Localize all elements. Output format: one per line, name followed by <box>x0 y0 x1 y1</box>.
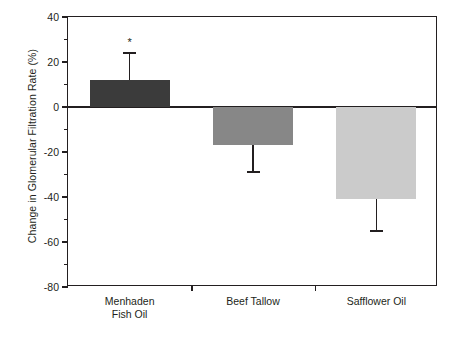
y-axis-tick-label: -40 <box>44 191 59 203</box>
y-axis-tick-label: 0 <box>53 101 59 113</box>
y-axis-title: Change in Glomerular Filtration Rate (%) <box>26 21 38 271</box>
y-axis-tick <box>62 16 68 17</box>
plot-area: 40200-20-40-60-80Menhaden Fish OilBeef T… <box>67 16 437 286</box>
y-axis-tick <box>62 61 68 62</box>
y-axis-minor-tick <box>64 174 68 175</box>
error-bar-cap <box>370 230 383 232</box>
y-axis-tick-label: -80 <box>44 281 59 293</box>
y-axis-minor-tick <box>64 129 68 130</box>
y-axis-minor-tick <box>64 264 68 265</box>
y-axis-tick-label: 40 <box>47 11 59 23</box>
bar <box>90 80 170 107</box>
error-bar-line <box>376 199 378 231</box>
y-axis-tick-label: -60 <box>44 236 59 248</box>
x-axis-tick <box>315 285 316 291</box>
y-axis-tick <box>62 151 68 152</box>
error-bar-cap <box>247 171 260 173</box>
y-axis-minor-tick <box>64 84 68 85</box>
x-axis-tick-label: Safflower Oil <box>347 295 406 308</box>
y-axis-tick-label: 20 <box>47 56 59 68</box>
y-axis-tick-label: -20 <box>44 146 59 158</box>
y-axis-tick <box>62 286 68 287</box>
bar <box>336 107 416 199</box>
significance-marker: * <box>128 37 132 48</box>
caption-strip <box>0 324 469 338</box>
x-axis-tick <box>191 285 192 291</box>
bar <box>213 107 293 145</box>
error-bar-line <box>252 145 254 172</box>
error-bar-cap <box>123 52 136 54</box>
y-axis-minor-tick <box>64 219 68 220</box>
x-axis-tick-label: Beef Tallow <box>226 295 280 308</box>
error-bar-line <box>129 53 131 80</box>
x-axis-tick-label: Menhaden Fish Oil <box>105 295 155 320</box>
y-axis-minor-tick <box>64 39 68 40</box>
y-axis-tick <box>62 196 68 197</box>
chart-figure: Change in Glomerular Filtration Rate (%)… <box>0 0 469 338</box>
y-axis-tick <box>62 241 68 242</box>
